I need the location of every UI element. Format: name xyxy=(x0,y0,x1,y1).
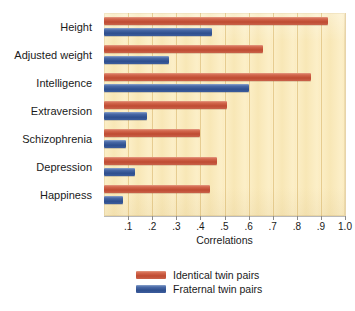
bar-row xyxy=(104,99,345,127)
bar-row xyxy=(104,71,345,99)
bar-fraternal xyxy=(104,84,249,92)
tick-mark xyxy=(176,216,177,220)
bar-fraternal xyxy=(104,196,123,204)
x-axis-ticks: .1.2.3.4.5.6.7.8.91.0 xyxy=(0,216,355,232)
bar-identical xyxy=(104,157,217,165)
tick-label: .9 xyxy=(317,221,325,232)
tick-label: .7 xyxy=(269,221,277,232)
category-label: Depression xyxy=(0,161,92,173)
category-label: Intelligence xyxy=(0,77,92,89)
plot-area xyxy=(104,13,345,216)
bar-identical xyxy=(104,129,200,137)
tick-mark xyxy=(297,216,298,220)
bar-identical xyxy=(104,101,227,109)
legend-swatch-fraternal xyxy=(136,285,166,293)
bar-row xyxy=(104,155,345,183)
category-label: Schizophrenia xyxy=(0,133,92,145)
gridline xyxy=(345,13,346,216)
bar-identical xyxy=(104,185,210,193)
x-axis-title: Correlations xyxy=(104,234,345,246)
tick-label: .5 xyxy=(220,221,228,232)
bar-identical xyxy=(104,45,263,53)
tick-mark xyxy=(225,216,226,220)
tick-mark xyxy=(200,216,201,220)
tick-mark xyxy=(273,216,274,220)
tick-mark xyxy=(128,216,129,220)
tick-label: .3 xyxy=(172,221,180,232)
bar-identical xyxy=(104,73,311,81)
legend-item-fraternal: Fraternal twin pairs xyxy=(0,282,355,296)
tick-label: .8 xyxy=(293,221,301,232)
legend-item-identical: Identical twin pairs xyxy=(0,268,355,282)
bar-row xyxy=(104,183,345,211)
tick-mark xyxy=(321,216,322,220)
tick-label: .1 xyxy=(124,221,132,232)
bar-row xyxy=(104,127,345,155)
category-label: Height xyxy=(0,21,92,33)
legend-label-fraternal: Fraternal twin pairs xyxy=(173,283,262,295)
category-label: Adjusted weight xyxy=(0,49,92,61)
tick-mark xyxy=(152,216,153,220)
tick-label: 1.0 xyxy=(338,221,352,232)
category-axis-labels: HeightAdjusted weightIntelligenceExtrave… xyxy=(0,13,98,209)
bar-fraternal xyxy=(104,112,147,120)
bar-identical xyxy=(104,17,328,25)
chart-legend: Identical twin pairs Fraternal twin pair… xyxy=(0,268,355,296)
bar-fraternal xyxy=(104,56,169,64)
bar-row xyxy=(104,43,345,71)
category-label: Happiness xyxy=(0,189,92,201)
bar-rows xyxy=(104,13,345,209)
bar-fraternal xyxy=(104,140,126,148)
tick-label: .4 xyxy=(196,221,204,232)
correlations-bar-chart: HeightAdjusted weightIntelligenceExtrave… xyxy=(0,0,355,311)
legend-label-identical: Identical twin pairs xyxy=(173,269,259,281)
category-label: Extraversion xyxy=(0,105,92,117)
tick-mark xyxy=(249,216,250,220)
bar-fraternal xyxy=(104,168,135,176)
tick-label: .6 xyxy=(244,221,252,232)
tick-label: .2 xyxy=(148,221,156,232)
legend-swatch-identical xyxy=(136,271,166,279)
bar-fraternal xyxy=(104,28,212,36)
tick-mark xyxy=(345,216,346,220)
bar-row xyxy=(104,15,345,43)
